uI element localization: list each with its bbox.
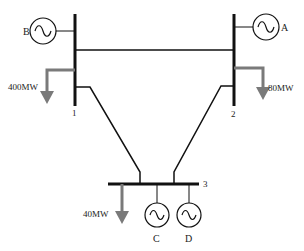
generator-b-label: B — [23, 26, 30, 37]
generator-a-label: A — [281, 22, 289, 33]
generator-a-icon — [253, 14, 279, 40]
load-1-arrow-icon — [40, 70, 75, 104]
generator-c-icon — [145, 203, 169, 227]
bus-3-label: 3 — [203, 179, 208, 189]
generator-d-label: D — [185, 233, 192, 244]
bus-1-label: 1 — [72, 108, 77, 118]
load-2-label: 80MW — [268, 83, 294, 93]
load-1-label: 400MW — [8, 82, 39, 92]
generator-d-icon — [177, 203, 201, 227]
line-1-3 — [75, 87, 140, 184]
load-2-arrow-icon — [234, 68, 270, 100]
power-system-diagram: B A 400MW 1 80MW 2 3 40MW C D — [0, 0, 304, 251]
generator-c-label: C — [153, 233, 160, 244]
generator-b-icon — [30, 18, 56, 44]
load-3-arrow-icon — [115, 184, 129, 224]
line-2-3 — [174, 86, 234, 184]
bus-2-label: 2 — [231, 109, 236, 119]
load-3-label: 40MW — [83, 209, 109, 219]
